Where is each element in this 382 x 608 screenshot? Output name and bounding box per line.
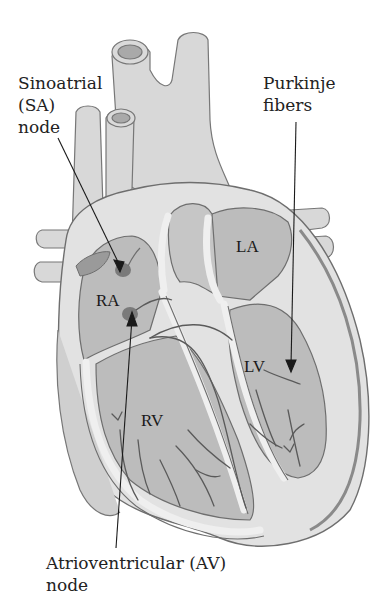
sa-node-label: Sinoatrial (SA) node: [18, 72, 102, 138]
sa-node-label-line3: node: [18, 116, 102, 138]
purkinje-label: Purkinje fibers: [263, 72, 336, 116]
purkinje-label-line2: fibers: [263, 94, 336, 116]
av-node-label-line1: Atrioventricular (AV): [46, 552, 226, 574]
av-node-label-line2: node: [46, 574, 226, 596]
av-node-label: Atrioventricular (AV) node: [46, 552, 226, 596]
sa-node-label-line1: Sinoatrial: [18, 72, 102, 94]
chamber-label-rv: RV: [141, 412, 163, 430]
chamber-label-lv: LV: [244, 358, 265, 376]
chamber-label-ra: RA: [96, 292, 120, 310]
sa-node-label-line2: (SA): [18, 94, 102, 116]
chamber-label-la: LA: [236, 238, 259, 256]
purkinje-label-line1: Purkinje: [263, 72, 336, 94]
